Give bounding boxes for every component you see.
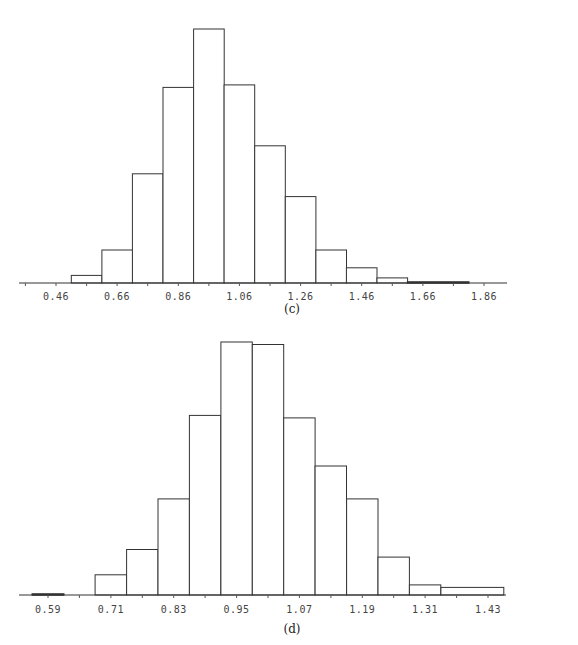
- histogram-d-plot: [0, 320, 578, 645]
- x-tick-label: 0.46: [43, 291, 69, 302]
- x-tick-label: 0.59: [35, 604, 61, 615]
- histogram-bar: [347, 499, 378, 595]
- histogram-bar: [285, 197, 316, 283]
- histogram-bar: [102, 250, 133, 283]
- histogram-bar: [163, 87, 194, 283]
- x-tick-label: 0.95: [224, 604, 250, 615]
- histogram-bar: [132, 174, 163, 283]
- histogram-bar: [255, 146, 286, 283]
- histogram-bar: [346, 268, 377, 283]
- x-tick-label: 1.19: [349, 604, 375, 615]
- histogram-bar: [441, 587, 504, 595]
- histogram-bar: [377, 278, 408, 283]
- histogram-bar: [71, 275, 102, 283]
- histogram-bar: [252, 345, 283, 596]
- x-tick-label: 1.46: [349, 291, 375, 302]
- caption-c: (c): [284, 302, 300, 316]
- histogram-bar: [221, 342, 252, 595]
- x-tick-label: 1.07: [286, 604, 312, 615]
- histogram-d: (d) 0.590.710.830.951.071.191.311.43: [0, 320, 578, 645]
- histogram-bar: [158, 499, 189, 595]
- histogram-bar: [378, 557, 409, 595]
- histogram-bar: [189, 415, 220, 595]
- histogram-bar: [224, 85, 255, 283]
- x-tick-label: 0.71: [98, 604, 124, 615]
- histogram-bar: [315, 466, 346, 595]
- x-tick-label: 1.43: [475, 604, 501, 615]
- histogram-bar: [127, 550, 158, 596]
- histogram-bar: [284, 418, 315, 595]
- histogram-c: (c) 0.460.660.861.061.261.461.661.86: [0, 0, 578, 320]
- histogram-bar: [316, 250, 347, 283]
- histogram-bar: [95, 575, 126, 595]
- x-tick-label: 1.26: [288, 291, 314, 302]
- x-tick-label: 1.66: [410, 291, 436, 302]
- x-tick-label: 1.06: [226, 291, 252, 302]
- caption-d: (d): [283, 622, 300, 636]
- x-tick-label: 0.66: [104, 291, 130, 302]
- histogram-bar: [409, 585, 440, 595]
- x-tick-label: 0.83: [161, 604, 187, 615]
- x-tick-label: 1.31: [412, 604, 438, 615]
- histogram-c-plot: [0, 0, 578, 320]
- x-tick-label: 0.86: [165, 291, 191, 302]
- x-tick-label: 1.86: [471, 291, 497, 302]
- histogram-bar: [194, 29, 225, 283]
